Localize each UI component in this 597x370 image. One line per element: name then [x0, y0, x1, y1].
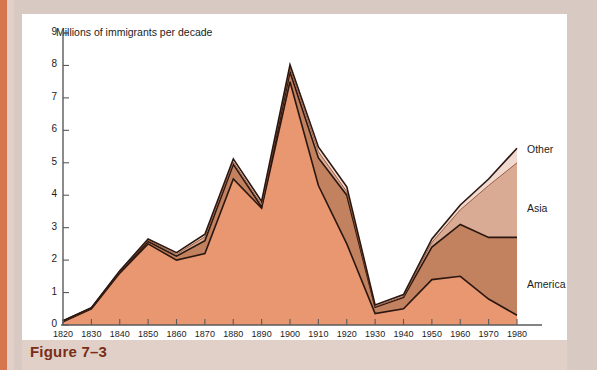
y-tick-label: 1: [45, 286, 57, 297]
x-tick-year: 1840: [110, 329, 130, 339]
x-tick-year: 1900: [280, 329, 300, 339]
area-band-europe: [63, 82, 517, 325]
x-tick-year: 1870: [195, 329, 215, 339]
figure-caption: Figure 7–3: [30, 343, 107, 360]
y-tick-label: 5: [45, 156, 57, 167]
stacked-area-chart: [22, 14, 567, 340]
x-tick-year: 1930: [365, 329, 385, 339]
y-tick-label: 0: [45, 318, 57, 329]
x-tick-year: 1980: [507, 329, 527, 339]
x-tick-year: 1950: [422, 329, 442, 339]
left-accent-bar: [0, 0, 7, 370]
y-tick-label: 7: [45, 91, 57, 102]
x-tick-year: 1890: [252, 329, 272, 339]
y-tick-label: 9: [45, 26, 57, 37]
y-tick-label: 8: [45, 58, 57, 69]
x-tick-year: 1830: [81, 329, 101, 339]
legend-label-asia: Asia: [527, 202, 547, 214]
y-tick-label: 4: [45, 188, 57, 199]
legend-label-other: Other: [527, 143, 553, 155]
x-tick-year: 1920: [337, 329, 357, 339]
x-tick-year: 1940: [393, 329, 413, 339]
y-tick-label: 2: [45, 253, 57, 264]
y-tick-label: 6: [45, 123, 57, 134]
x-tick-year: 1860: [166, 329, 186, 339]
x-tick-year: 1910: [308, 329, 328, 339]
x-tick-year: 1970: [479, 329, 499, 339]
chart-card: Millions of immigrants per decade 012345…: [22, 14, 567, 340]
x-tick-year: 1820: [53, 329, 73, 339]
x-tick-year: 1960: [450, 329, 470, 339]
x-tick-year: 1850: [138, 329, 158, 339]
figure-page: Millions of immigrants per decade 012345…: [0, 0, 597, 370]
x-tick-year: 1880: [223, 329, 243, 339]
y-tick-label: 3: [45, 221, 57, 232]
left-margin-strip: [7, 0, 14, 370]
legend-label-america: America: [527, 278, 566, 290]
